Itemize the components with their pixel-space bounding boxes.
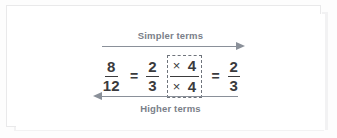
equals-sign-1: = (129, 68, 139, 84)
multiplier-numerator-row: × 4 (170, 57, 200, 77)
figure-frame: Simpler terms 8 12 = 2 3 × 4 (6, 5, 321, 127)
figure-canvas: Simpler terms 8 12 = 2 3 × 4 (0, 0, 337, 138)
higher-terms-label: Higher terms (16, 103, 325, 114)
equals-sign-2: = (210, 68, 220, 84)
right-fraction-numerator: 2 (228, 59, 241, 77)
arrow-left-icon (93, 92, 102, 100)
figure-inner-plate: Simpler terms 8 12 = 2 3 × 4 (16, 14, 325, 130)
simpler-terms-arrow-group: Simpler terms (16, 30, 325, 56)
left-fraction-numerator: 8 (105, 59, 118, 77)
higher-terms-arrow-group: Higher terms (16, 88, 325, 114)
simpler-terms-label: Simpler terms (16, 30, 325, 41)
arrow-right-icon (236, 42, 245, 50)
multiplier-numerator-value: 4 (188, 58, 197, 74)
middle-fraction-numerator: 2 (146, 59, 159, 77)
multiply-icon-numerator: × (173, 58, 181, 74)
simpler-terms-arrow-line (102, 46, 238, 47)
higher-terms-arrow-line (102, 96, 238, 97)
